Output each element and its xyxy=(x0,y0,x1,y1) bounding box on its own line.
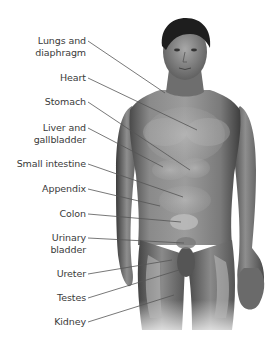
label-line1: Urinary xyxy=(52,232,86,243)
label-line2: diaphragm xyxy=(35,47,86,59)
label-kidney: Kidney xyxy=(54,316,86,328)
label-liver-and-gallbladder: Liver and gallbladder xyxy=(34,122,86,146)
lungs-highlight xyxy=(145,107,225,163)
human-body-figure xyxy=(116,18,264,342)
label-line1: Appendix xyxy=(42,183,86,194)
label-testes: Testes xyxy=(57,292,86,304)
label-heart: Heart xyxy=(60,72,86,84)
label-urinary-bladder: Urinary bladder xyxy=(50,232,86,256)
label-line1: Heart xyxy=(60,72,86,83)
label-line1: Small intestine xyxy=(17,158,86,169)
label-stomach: Stomach xyxy=(45,96,86,108)
left-hand xyxy=(237,268,264,310)
leader-line-lungs xyxy=(88,41,165,93)
label-line1: Stomach xyxy=(45,96,86,107)
label-line1: Kidney xyxy=(54,316,86,327)
label-line1: Liver and xyxy=(43,122,86,133)
label-lungs-and-diaphragm: Lungs and diaphragm xyxy=(35,35,86,59)
stomach-highlight xyxy=(180,158,210,178)
label-colon: Colon xyxy=(60,208,86,220)
colon-highlight xyxy=(170,214,198,230)
label-line1: Lungs and xyxy=(38,35,86,46)
label-appendix: Appendix xyxy=(42,183,86,195)
label-small-intestine: Small intestine xyxy=(17,158,86,170)
label-line2: gallbladder xyxy=(34,134,86,146)
label-line1: Ureter xyxy=(57,268,86,279)
label-line1: Testes xyxy=(57,292,86,303)
label-ureter: Ureter xyxy=(57,268,86,280)
genital-region xyxy=(177,247,195,277)
label-line2: bladder xyxy=(50,244,86,256)
small-intestine-highlight xyxy=(159,186,211,214)
label-line1: Colon xyxy=(60,208,86,219)
